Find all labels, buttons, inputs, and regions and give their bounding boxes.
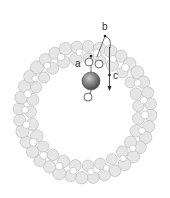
small-grain <box>70 167 77 174</box>
grain <box>47 149 58 160</box>
small-grain <box>29 138 37 146</box>
tracked-particle-0 <box>85 58 93 66</box>
small-grain <box>57 53 64 60</box>
grain <box>82 40 94 52</box>
tracked-particle-2 <box>84 93 92 101</box>
small-grain <box>140 96 147 103</box>
grain <box>107 154 118 165</box>
small-grain <box>32 75 39 82</box>
small-grain <box>120 155 126 161</box>
grain <box>39 72 50 83</box>
small-grain <box>130 145 137 152</box>
label-c: c <box>113 70 118 81</box>
small-grain <box>76 49 83 56</box>
small-grain <box>40 152 48 160</box>
grain <box>38 141 50 153</box>
marker-dot-b <box>104 35 107 38</box>
grain <box>31 82 42 93</box>
small-grain <box>103 165 110 172</box>
grain <box>109 165 121 177</box>
marker-dot-a <box>90 55 93 58</box>
small-grain <box>23 121 30 128</box>
small-grain <box>109 55 116 62</box>
small-grain <box>22 106 29 113</box>
grain <box>130 88 142 100</box>
label-a: a <box>75 58 81 69</box>
tracked-particle-1 <box>95 60 103 68</box>
small-grain <box>55 162 63 170</box>
small-grain <box>141 111 149 119</box>
intruder-sphere <box>82 72 100 90</box>
small-grain <box>139 127 146 134</box>
small-grain <box>87 168 94 175</box>
granular-ring-diagram: a b c <box>0 0 170 198</box>
grain <box>76 172 88 184</box>
small-grain <box>134 79 141 86</box>
small-grain <box>121 64 129 72</box>
small-grain <box>24 90 32 98</box>
small-grain <box>44 62 51 69</box>
label-b: b <box>102 21 108 32</box>
arrow-head-icon <box>108 86 112 91</box>
